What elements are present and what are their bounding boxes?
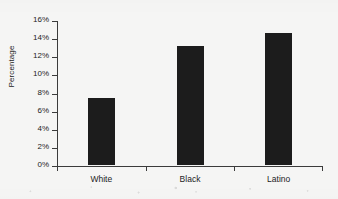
y-tick-label: 12% (33, 51, 49, 60)
bar (88, 98, 115, 165)
plot-area: 0%2%4%6%8%10%12%14%16% WhiteBlackLatino (57, 21, 323, 166)
y-tick-label: 4% (37, 124, 49, 133)
y-tick: 8% (52, 94, 57, 95)
y-tick: 2% (52, 148, 57, 149)
y-tick-label: 10% (33, 69, 49, 78)
y-tick-label: 0% (37, 160, 49, 169)
x-tick (57, 166, 58, 171)
y-tick-label: 8% (37, 88, 49, 97)
y-tick: 12% (52, 57, 57, 58)
y-axis-line (57, 21, 58, 167)
scan-noise-band (0, 182, 338, 199)
y-tick-label: 16% (33, 15, 49, 24)
y-tick: 10% (52, 75, 57, 76)
bar-chart-figure: Percentage 0%2%4%6%8%10%12%14%16% WhiteB… (0, 0, 338, 199)
x-tick (146, 166, 147, 171)
y-tick-label: 14% (33, 33, 49, 42)
x-tick (322, 166, 323, 171)
y-axis-title: Percentage (7, 32, 16, 102)
y-tick: 4% (52, 130, 57, 131)
bar (177, 46, 204, 165)
y-tick-label: 2% (37, 142, 49, 151)
bar (265, 33, 292, 165)
x-axis-line (57, 166, 323, 167)
y-tick: 6% (52, 112, 57, 113)
y-tick: 16% (52, 21, 57, 22)
y-tick: 14% (52, 39, 57, 40)
x-tick (234, 166, 235, 171)
y-tick-label: 6% (37, 106, 49, 115)
